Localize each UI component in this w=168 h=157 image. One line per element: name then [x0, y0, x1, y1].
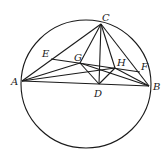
point-label-e: E	[41, 48, 50, 59]
segment-cg	[80, 24, 101, 63]
segment-cd	[99, 24, 101, 84]
segment-ef	[51, 59, 140, 72]
point-label-g: G	[74, 52, 82, 63]
point-label-h: H	[116, 57, 126, 68]
point-label-b: B	[152, 81, 160, 92]
segment-ab	[22, 81, 149, 86]
segment-ag	[22, 63, 80, 81]
point-label-f: F	[140, 61, 149, 72]
segment-ch	[101, 24, 115, 68]
point-label-c: C	[102, 12, 110, 23]
geometry-diagram: ABCDEFGH	[0, 0, 168, 157]
point-label-a: A	[10, 76, 18, 87]
point-label-d: D	[93, 88, 102, 99]
